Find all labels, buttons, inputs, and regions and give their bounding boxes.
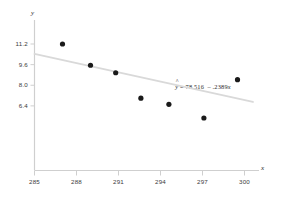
data-point <box>60 41 65 46</box>
regression-trendline <box>35 54 253 102</box>
data-point <box>166 102 171 107</box>
data-point <box>201 115 206 120</box>
data-point <box>113 70 118 75</box>
x-axis-ticks <box>35 171 245 176</box>
scatter-plot <box>0 0 284 199</box>
data-points <box>60 41 240 120</box>
trendline-segment <box>35 54 253 102</box>
data-point <box>235 77 240 82</box>
data-point <box>138 96 143 101</box>
data-point <box>88 63 93 68</box>
